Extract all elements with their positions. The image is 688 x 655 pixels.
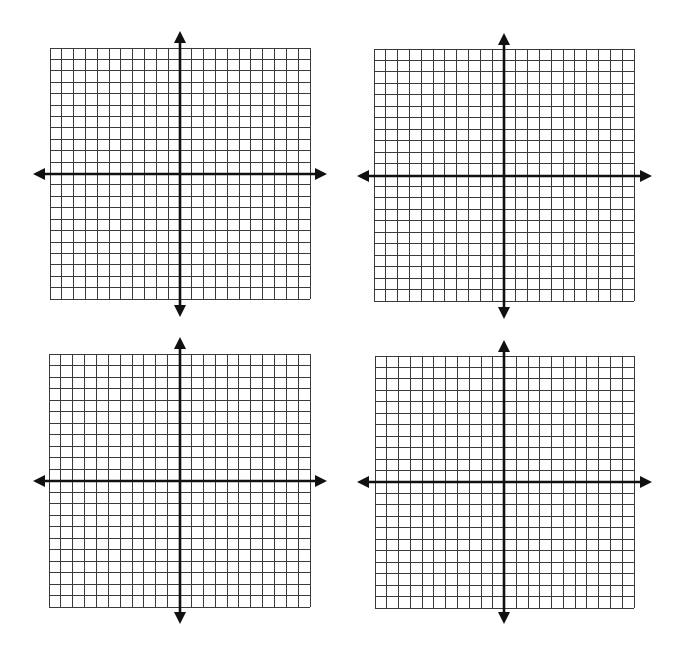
arrow-up-icon (174, 31, 186, 43)
arrow-down-icon (498, 307, 510, 319)
arrow-right-icon (315, 168, 327, 180)
arrow-right-icon (640, 170, 652, 182)
arrow-right-icon (315, 475, 327, 487)
coordinate-planes-canvas (0, 0, 688, 655)
coordinate-plane-bottom-right (357, 340, 652, 624)
arrow-down-icon (174, 612, 186, 624)
arrow-left-icon (33, 168, 45, 180)
coordinate-plane-bottom-left (33, 337, 327, 624)
arrow-left-icon (357, 476, 369, 488)
arrow-right-icon (640, 476, 652, 488)
arrow-left-icon (33, 475, 45, 487)
coordinate-plane-top-left (33, 31, 327, 317)
arrow-down-icon (174, 305, 186, 317)
arrow-up-icon (498, 340, 510, 352)
arrow-left-icon (357, 170, 369, 182)
arrow-down-icon (498, 612, 510, 624)
arrow-up-icon (498, 33, 510, 45)
arrow-up-icon (174, 337, 186, 349)
coordinate-plane-top-right (357, 33, 652, 319)
